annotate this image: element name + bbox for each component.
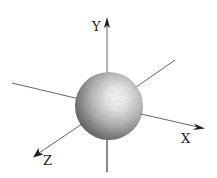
sphere [75, 72, 143, 140]
y-axis-label: Y [91, 19, 101, 34]
x-axis-label: X [181, 131, 191, 146]
z-axis-label: Z [43, 153, 52, 168]
z-axis-positive-line [39, 124, 82, 153]
z-axis-arrowhead-icon [33, 148, 44, 158]
x-axis-positive-line [141, 114, 198, 127]
diagram-canvas: Y X Z [0, 0, 217, 178]
x-axis-arrowhead-icon [193, 124, 205, 131]
